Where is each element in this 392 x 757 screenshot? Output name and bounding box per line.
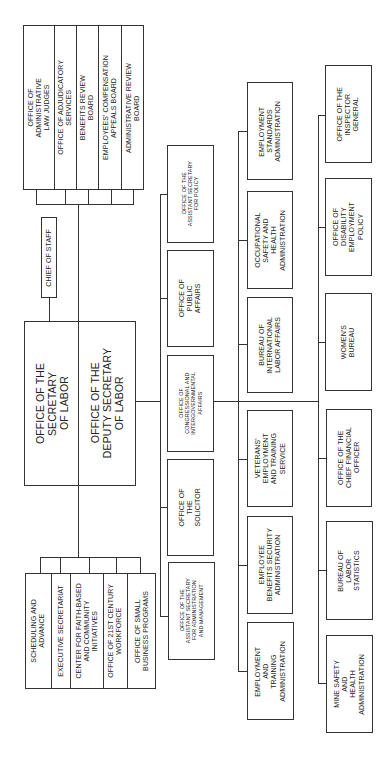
box-employment-training-admin: EMPLOYMENT AND TRAINING ADMINISTRATION [247, 622, 294, 720]
box-executive-secretariat: EXECUTIVE SECRETARIAT [52, 574, 71, 688]
staff-spine [160, 194, 161, 617]
box-ecab: EMPLOYEES' COMPENSATION APPEALS BOARD [99, 26, 122, 189]
connector [88, 190, 89, 205]
label-deputy: OFFICE OF THE DEPUTY SECRETARY OF LABOR [89, 348, 125, 458]
box-employment-standards-admin: EMPLOYMENT STANDARDS ADMINISTRATION [247, 82, 293, 180]
label: CHIEF OF STAFF [45, 229, 53, 287]
label: CENTER FOR FAITH-BASED AND COMMUNITY INI… [75, 583, 100, 679]
label: EMPLOYMENT STANDARDS ADMINISTRATION [258, 101, 283, 162]
box-congressional-affairs: OFFICE OF CONGRESSIONAL AND INTERGOVERNM… [167, 355, 214, 452]
label: BUREAU OF INTERNATIONAL LABOR AFFAIRS [258, 317, 283, 374]
connector [40, 557, 41, 574]
agency-spine-2 [318, 115, 319, 684]
box-ebsa: EMPLOYEE BENEFITS SECURITY ADMINISTRATIO… [247, 516, 293, 614]
label: OFFICE OF THE ASSISTANT SECRETARY FOR PO… [181, 161, 200, 226]
connector [318, 458, 326, 459]
box-solicitor: OFFICE OF THE SOLICITOR [167, 459, 214, 556]
box-inspector-general: OFFICE OF THE INSPECTOR GENERAL [325, 65, 372, 163]
box-benefits-review-board: BENEFITS REVIEW BOARD [77, 26, 99, 189]
label-secretary: OFFICE OF THE SECRETARY OF LABOR [34, 363, 70, 444]
label: VETERANS' EMPLOYMENT AND TRAINING SERVIC… [254, 433, 287, 484]
label: EMPLOYEE BENEFITS SECURITY ADMINISTRATIO… [258, 528, 283, 601]
label: MINE SAFETY AND HEALTH ADMINISTRATION [333, 654, 366, 715]
box-secretary-of-labor: OFFICE OF THE SECRETARY OF LABOR OFFICE … [24, 321, 136, 486]
box-bureau-international-labor-affairs: BUREAU OF INTERNATIONAL LABOR AFFAIRS [247, 297, 293, 393]
box-scheduling-advance: SCHEDULING AND ADVANCE [26, 574, 52, 688]
box-faith-based-center: CENTER FOR FAITH-BASED AND COMMUNITY INI… [71, 574, 104, 688]
connector [140, 557, 141, 574]
box-adjudicatory-services: OFFICE OF ADJUDICATORY SERVICES [55, 26, 77, 189]
secretary-half: OFFICE OF THE SECRETARY OF LABOR [25, 322, 79, 485]
boards-stack: OFFICE OF ADMINISTRATIVE LAW JUDGES OFFI… [23, 25, 144, 190]
box-bureau-labor-statistics: BUREAU OF LABOR STATISTICS [326, 521, 373, 620]
connector [65, 190, 66, 205]
connector [60, 557, 61, 574]
immediate-offices-stack: SCHEDULING AND ADVANCE EXECUTIVE SECRETA… [25, 573, 156, 689]
label: OFFICE OF THE SOLICITOR [178, 488, 203, 527]
label: EXECUTIVE SECRETARIAT [57, 585, 65, 677]
label: ADMINISTRATIVE REVIEW BOARD [125, 63, 141, 153]
label: EMPLOYMENT AND TRAINING ADMINISTRATION [254, 641, 287, 702]
box-public-affairs: OFFICE OF PUBLIC AFFAIRS [167, 250, 214, 347]
box-disability-employment-policy: OFFICE OF DISABILITY EMPLOYMENT POLICY [325, 178, 372, 276]
label: OFFICE OF PUBLIC AFFAIRS [178, 279, 203, 317]
box-veterans-employment-training: VETERANS' EMPLOYMENT AND TRAINING SERVIC… [247, 410, 293, 507]
label: WOMEN'S BUREAU [340, 325, 356, 359]
label: OFFICE OF THE ASSISTANT SECRETARY FOR AD… [179, 578, 204, 643]
connector [133, 190, 134, 205]
label: OFFICE OF THE INSPECTOR GENERAL [336, 87, 361, 141]
box-chief-financial-officer: OFFICE OF THE CHIEF FINANCIAL OFFICER [326, 409, 372, 507]
label: OFFICE OF CONGRESSIONAL AND INTERGOVERNM… [178, 372, 203, 435]
label: OFFICE OF ADJUDICATORY SERVICES [57, 60, 73, 155]
label: EMPLOYEES' COMPENSATION APPEALS BOARD [102, 55, 118, 160]
label: OFFICE OF DISABILITY EMPLOYMENT POLICY [332, 202, 365, 252]
box-mine-safety-health-admin: MINE SAFETY AND HEALTH ADMINISTRATION [326, 635, 373, 733]
connector [214, 401, 319, 402]
label: BENEFITS REVIEW BOARD [79, 75, 95, 140]
label: OFFICE OF SMALL BUSINESS PROGRAMS [134, 591, 150, 671]
connector [136, 401, 161, 402]
connector [160, 616, 168, 617]
box-asst-secretary-admin-mgmt: OFFICE OF THE ASSISTANT SECRETARY FOR AD… [168, 562, 215, 660]
connector [36, 190, 37, 205]
box-chief-of-staff: CHIEF OF STAFF [41, 217, 57, 298]
connector [318, 683, 326, 684]
label: BUREAU OF LABOR STATISTICS [337, 550, 362, 592]
box-21st-century-workforce: OFFICE OF 21ST CENTURY WORKFORCE [104, 574, 128, 688]
box-womens-bureau: WOMEN'S BUREAU [325, 293, 372, 391]
connector [116, 557, 117, 574]
box-small-business-programs: OFFICE OF SMALL BUSINESS PROGRAMS [128, 574, 156, 688]
connector [40, 557, 141, 558]
deputy-half: OFFICE OF THE DEPUTY SECRETARY OF LABOR [79, 322, 135, 485]
connector [36, 204, 134, 205]
box-osha: OCCUPATIONAL SAFETY AND HEALTH ADMINISTR… [247, 191, 293, 289]
label: OFFICE OF THE CHIEF FINANCIAL OFFICER [337, 427, 362, 488]
agency-spine-1 [238, 131, 239, 672]
box-administrative-law-judges: OFFICE OF ADMINISTRATIVE LAW JUDGES [24, 26, 55, 189]
label: OCCUPATIONAL SAFETY AND HEALTH ADMINISTR… [254, 210, 287, 271]
connector [49, 298, 50, 322]
box-asst-secretary-policy: OFFICE OF THE ASSISTANT SECRETARY FOR PO… [167, 145, 214, 243]
label: OFFICE OF ADMINISTRATIVE LAW JUDGES [27, 78, 52, 138]
label: OFFICE OF 21ST CENTURY WORKFORCE [107, 584, 123, 678]
box-administrative-review-board: ADMINISTRATIVE REVIEW BOARD [122, 26, 144, 189]
label: SCHEDULING AND ADVANCE [30, 599, 46, 663]
connector [89, 557, 90, 574]
connector [111, 190, 112, 205]
connector [318, 570, 326, 571]
